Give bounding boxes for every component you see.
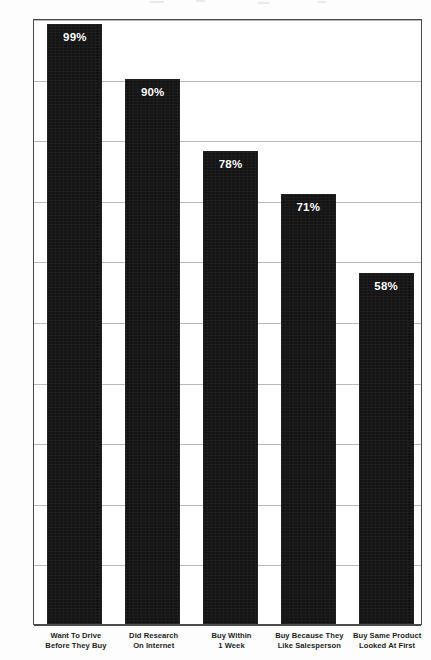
gridline-0 (34, 625, 421, 626)
x-category-label-line: Looked At First (341, 641, 431, 651)
bar-chart: 99%90%78%71%58% 0%10%20%30%40%50%60%70%8… (0, 0, 431, 660)
bar[interactable]: 58% (359, 273, 414, 624)
bar-value-label: 58% (359, 280, 414, 292)
x-category-label: Buy Same ProductLooked At First (341, 631, 431, 651)
plot-area: 99%90%78%71%58% (33, 19, 422, 625)
bar[interactable]: 71% (281, 194, 336, 624)
gridline-100 (34, 20, 421, 21)
bar-value-label: 99% (47, 31, 102, 43)
scan-artifact (196, 0, 205, 2)
scan-artifact (318, 1, 326, 3)
bar[interactable]: 90% (125, 79, 180, 624)
x-category-label-line: Buy Because They (275, 631, 343, 640)
scan-artifact (258, 2, 269, 4)
x-category-label-line: Did Research (129, 631, 178, 640)
x-category-label-line: Buy Same Product (353, 631, 421, 640)
bar-value-label: 90% (125, 86, 180, 98)
bar-value-label: 78% (203, 158, 258, 170)
x-category-label-line: Want To Drive (50, 631, 101, 640)
bar[interactable]: 99% (47, 24, 102, 624)
bar-value-label: 71% (281, 201, 336, 213)
bar[interactable]: 78% (203, 151, 258, 624)
x-category-label-line: Buy Within (211, 631, 251, 640)
scan-artifact (150, 1, 164, 3)
